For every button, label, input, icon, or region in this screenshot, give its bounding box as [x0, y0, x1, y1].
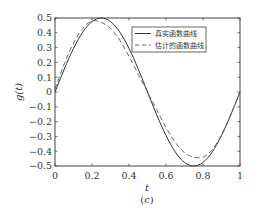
x-tick-label: 0: [52, 170, 58, 181]
x-tick-label: 0.8: [195, 170, 210, 181]
y-tick-label: 0.1: [37, 72, 52, 83]
x-axis-label: t: [145, 182, 150, 193]
y-tick-label: −0.4: [29, 146, 52, 157]
legend: 真实函数曲线 估计的函数曲线: [132, 27, 206, 52]
y-tick-label: 0.3: [37, 42, 52, 53]
y-tick-label: −0.3: [29, 131, 52, 142]
y-tick-label: 0.2: [37, 57, 52, 68]
y-tick-label: −0.1: [29, 101, 52, 112]
x-tick-label: 0.4: [121, 170, 136, 181]
y-tick-label: −0.5: [29, 160, 52, 171]
figure-caption: (c): [140, 194, 154, 205]
y-tick-label: 0.5: [37, 12, 52, 23]
x-tick-label: 0.6: [158, 170, 173, 181]
y-tick-label: 0.4: [37, 27, 52, 38]
y-axis-label: g(t): [13, 83, 24, 101]
legend-label-estimated: 估计的函数曲线: [155, 41, 204, 50]
y-tick-label: 0: [46, 86, 52, 97]
x-tick-label: 0.2: [84, 170, 99, 181]
legend-label-true: 真实函数曲线: [155, 29, 197, 38]
y-tick-label: −0.2: [29, 116, 52, 127]
x-tick-label: 1: [237, 170, 243, 181]
line-chart: 00.20.40.60.810.50.40.30.20.10−0.1−0.2−0…: [0, 0, 255, 210]
